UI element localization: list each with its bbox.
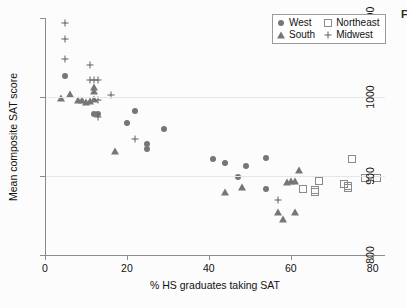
data-point-west <box>144 141 150 147</box>
plus-icon <box>324 31 332 39</box>
x-axis-title: % HS graduates taking SAT <box>45 279 385 291</box>
y-axis-tick <box>40 176 45 177</box>
data-point-west <box>243 163 249 169</box>
gridline <box>46 176 385 177</box>
data-point-west <box>210 156 216 162</box>
data-point-midwest <box>95 113 102 120</box>
gridline <box>46 97 385 98</box>
cutoff-edge-text: F <box>401 8 407 20</box>
filled-triangle-icon-glyph <box>277 32 285 39</box>
legend-label: West <box>289 18 312 28</box>
data-point-west <box>263 155 269 161</box>
x-axis-tick-label: 60 <box>285 262 297 274</box>
data-point-west <box>144 146 150 152</box>
data-point-south <box>287 177 295 184</box>
data-point-midwest <box>62 56 69 63</box>
x-axis-tick <box>373 255 374 260</box>
open-square-icon <box>324 19 332 27</box>
plus-icon-glyph <box>325 32 332 39</box>
data-point-northeast <box>315 177 323 185</box>
data-point-south <box>221 188 229 195</box>
x-axis-tick-label: 80 <box>367 262 379 274</box>
legend: WestNortheastSouthMidwest <box>272 14 386 44</box>
data-point-midwest <box>95 77 102 84</box>
data-point-south <box>90 88 98 95</box>
x-axis-tick-label: 20 <box>121 262 133 274</box>
data-point-south <box>90 83 98 90</box>
y-axis-line <box>45 18 46 255</box>
data-point-south <box>291 208 299 215</box>
data-point-midwest <box>132 135 139 142</box>
data-point-northeast <box>311 186 319 194</box>
y-axis-tick <box>40 97 45 98</box>
figure-canvas: F Mean composite SAT score 8009001000110… <box>0 0 407 308</box>
data-point-south <box>295 167 303 174</box>
legend-entry-northeast[interactable]: Northeast <box>324 18 379 28</box>
data-point-northeast <box>344 184 352 192</box>
legend-label: Northeast <box>336 18 379 28</box>
y-axis-tick <box>40 18 45 19</box>
x-axis-tick-label: 0 <box>42 262 48 274</box>
data-point-west <box>132 108 138 114</box>
data-point-south <box>279 216 287 223</box>
legend-label: Midwest <box>336 30 373 40</box>
data-point-south <box>283 178 291 185</box>
data-point-south <box>111 147 119 154</box>
y-axis-tick-label: 900 <box>364 167 376 185</box>
data-point-south <box>291 177 299 184</box>
data-point-south <box>82 98 90 105</box>
data-point-west <box>161 126 167 132</box>
data-point-northeast <box>299 185 307 193</box>
open-square-icon-glyph <box>324 19 332 27</box>
plot-area <box>45 18 385 255</box>
data-point-midwest <box>62 19 69 26</box>
data-point-midwest <box>62 35 69 42</box>
data-point-midwest <box>87 61 94 68</box>
legend-entry-south[interactable]: South <box>277 30 315 40</box>
data-point-midwest <box>91 77 98 84</box>
legend-entry-midwest[interactable]: Midwest <box>324 30 379 40</box>
data-point-northeast <box>344 182 352 190</box>
filled-triangle-icon <box>277 31 285 39</box>
legend-entry-west[interactable]: West <box>277 18 315 28</box>
data-point-south <box>274 208 282 215</box>
data-point-west <box>263 186 269 192</box>
x-axis-tick <box>209 255 210 260</box>
data-point-west <box>62 73 68 79</box>
data-point-northeast <box>348 155 356 163</box>
plot-frame: 80090010001100020406080 <box>45 18 385 255</box>
data-point-northeast <box>311 188 319 196</box>
data-point-midwest <box>87 76 94 83</box>
data-point-west <box>124 120 130 126</box>
data-point-south <box>238 184 246 191</box>
y-axis-tick-label: 1000 <box>364 85 376 108</box>
y-axis-title-text: Mean composite SAT score <box>7 73 19 201</box>
x-axis-tick <box>45 255 46 260</box>
x-axis-tick <box>127 255 128 260</box>
y-axis-title: Mean composite SAT score <box>6 18 20 255</box>
filled-circle-icon-glyph <box>278 20 284 26</box>
data-point-northeast <box>340 180 348 188</box>
data-point-south <box>86 97 94 104</box>
x-axis-tick-label: 40 <box>203 262 215 274</box>
data-point-midwest <box>275 197 282 204</box>
data-point-west <box>222 160 228 166</box>
data-point-west <box>95 111 101 117</box>
data-point-west <box>91 111 97 117</box>
x-axis-line <box>45 255 385 256</box>
legend-label: South <box>289 30 315 40</box>
x-axis-tick <box>291 255 292 260</box>
filled-circle-icon <box>277 19 285 27</box>
